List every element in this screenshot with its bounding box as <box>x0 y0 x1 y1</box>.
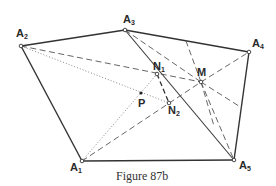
point-p <box>139 91 142 94</box>
label-a2: A2 <box>16 27 28 40</box>
vertex-a1 <box>80 159 84 163</box>
point-m <box>199 80 203 84</box>
dot-a2-n2 <box>21 46 169 103</box>
label-n2: N2 <box>168 104 180 117</box>
edge-a1-a2 <box>21 46 82 161</box>
diagonal-a3-a5 <box>125 30 234 160</box>
label-a5: A5 <box>239 159 251 172</box>
pentagon-edges <box>21 30 249 161</box>
label-a4: A4 <box>252 37 264 50</box>
label-a1: A1 <box>70 161 82 174</box>
dash-m-a5 <box>201 82 234 160</box>
edge-a4-a5 <box>234 52 249 160</box>
edge-a5-a1 <box>82 160 234 161</box>
point-n1 <box>155 72 159 76</box>
dot-a1-n1 <box>82 74 157 161</box>
vertex-a5 <box>232 158 236 162</box>
vertex-a4 <box>247 50 251 54</box>
dashed-lines <box>21 30 249 161</box>
label-m: M <box>197 66 206 78</box>
pentagon-figure: A1 A2 A3 A4 A5 M N1 N2 P Figure 87b <box>0 0 276 186</box>
vertex-markers <box>19 28 251 163</box>
label-n1: N1 <box>153 60 165 73</box>
edge-a3-a4 <box>125 30 249 52</box>
edge-a2-a3 <box>21 30 125 46</box>
dash-m-a4 <box>201 52 249 82</box>
vertex-a3 <box>123 28 127 32</box>
dotted-lines <box>21 46 169 161</box>
label-p: P <box>138 97 145 109</box>
figure-caption: Figure 87b <box>116 169 168 183</box>
label-a3: A3 <box>123 13 135 26</box>
vertex-a2 <box>19 44 23 48</box>
